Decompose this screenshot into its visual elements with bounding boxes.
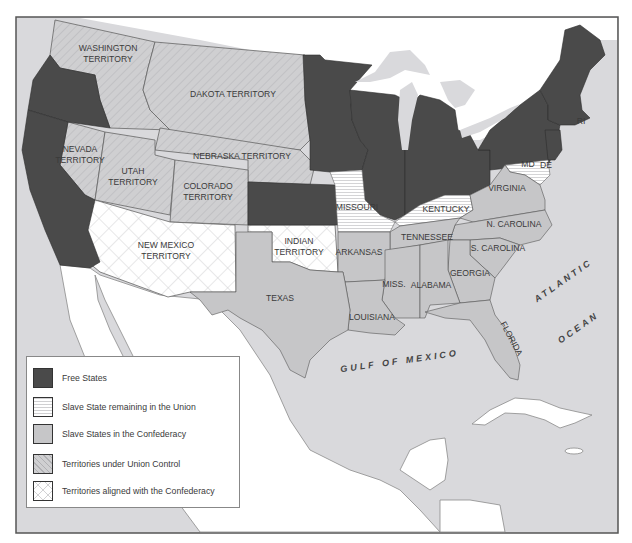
slave-union-swatch xyxy=(33,397,53,417)
territory-confederacy-swatch xyxy=(33,481,53,501)
label-texas: TEXAS xyxy=(266,293,294,303)
label-indian-2: TERRITORY xyxy=(274,247,324,257)
label-indian: INDIAN xyxy=(284,236,313,246)
confederacy-swatch xyxy=(33,424,53,444)
label-de: DE xyxy=(540,160,552,170)
label-dakota: DAKOTA TERRITORY xyxy=(190,89,276,99)
label-alabama: ALABAMA xyxy=(411,280,452,290)
label-arkansas: ARKANSAS xyxy=(336,247,383,257)
label-new-mexico: NEW MEXICO xyxy=(138,240,195,250)
legend-label: Slave State remaining in the Union xyxy=(62,402,196,412)
label-missouri: MISSOURI xyxy=(336,202,379,212)
label-tennessee: TENNESSEE xyxy=(401,232,453,242)
label-nevada-2: TERRITORY xyxy=(55,155,105,165)
label-ri: RI xyxy=(577,116,586,126)
label-washington: WASHINGTON xyxy=(79,43,138,53)
label-georgia: GEORGIA xyxy=(450,268,490,278)
label-new-mexico-2: TERRITORY xyxy=(141,251,191,261)
legend-item-free-states: Free States xyxy=(33,367,107,389)
label-nebraska: NEBRASKA TERRITORY xyxy=(193,151,291,161)
label-virginia: VIRGINIA xyxy=(488,183,526,193)
legend-item-slave-union: Slave State remaining in the Union xyxy=(33,396,196,418)
label-n-carolina: N. CAROLINA xyxy=(487,219,542,229)
label-washington-2: TERRITORY xyxy=(83,54,133,64)
label-louisiana: LOUISIANA xyxy=(349,312,395,322)
legend-item-territories-union: Territories under Union Control xyxy=(33,453,180,475)
central-america xyxy=(440,500,505,532)
label-kentucky: KENTUCKY xyxy=(423,204,470,214)
legend-item-confederacy: Slave States in the Confederacy xyxy=(33,423,186,445)
territory-union-swatch xyxy=(33,454,53,474)
free-states-swatch xyxy=(33,368,53,388)
arkansas xyxy=(338,232,390,282)
legend-label: Free States xyxy=(62,373,107,383)
label-nevada: NEVADA xyxy=(63,144,98,154)
label-md: MD xyxy=(521,159,534,169)
label-utah: UTAH xyxy=(122,166,145,176)
label-colorado: COLORADO xyxy=(183,181,232,191)
label-s-carolina: S. CAROLINA xyxy=(471,243,526,253)
legend-label: Territories aligned with the Confederacy xyxy=(62,486,215,496)
jamaica xyxy=(565,448,583,454)
legend-label: Territories under Union Control xyxy=(62,459,180,469)
label-utah-2: TERRITORY xyxy=(108,177,158,187)
map-legend: Free States Slave State remaining in the… xyxy=(26,356,240,508)
label-miss: MISS. xyxy=(382,279,405,289)
legend-item-territories-confederacy: Territories aligned with the Confederacy xyxy=(33,480,215,502)
legend-label: Slave States in the Confederacy xyxy=(62,429,186,439)
kansas xyxy=(248,182,338,225)
label-colorado-2: TERRITORY xyxy=(183,192,233,202)
